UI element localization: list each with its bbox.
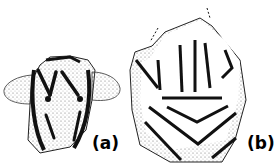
artifact-b-drawing <box>130 8 246 162</box>
panel-label-b: (b) <box>247 135 275 152</box>
figure-drawings <box>0 0 280 163</box>
panel-label-a: (a) <box>92 135 119 152</box>
